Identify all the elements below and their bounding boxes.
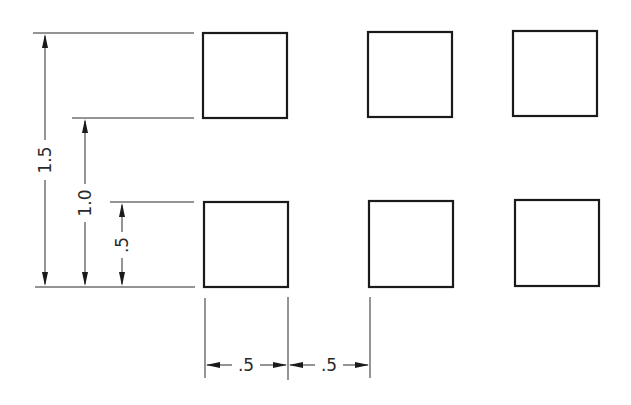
square-top-1 — [203, 33, 287, 118]
dimension-1-5: 1.5 — [35, 34, 55, 286]
dimension-0-5-horizontal-1: .5 — [206, 355, 287, 375]
dimension-0-5-horizontal-2: .5 — [289, 355, 369, 375]
square-bottom-1 — [204, 202, 288, 287]
square-grid — [203, 31, 599, 287]
arrow-up-icon — [119, 203, 125, 217]
dimension-0-5-vertical: .5 — [112, 203, 132, 286]
arrow-up-icon — [82, 119, 88, 133]
arrow-left-icon — [289, 362, 303, 368]
dimension-label-1-5: 1.5 — [35, 146, 55, 173]
extension-lines-bottom — [205, 297, 370, 380]
arrow-right-icon — [355, 362, 369, 368]
dimension-label-0-5-vertical: .5 — [112, 237, 132, 253]
square-top-2 — [368, 32, 452, 117]
dimension-label-1-0: 1.0 — [75, 189, 95, 216]
square-top-3 — [513, 31, 597, 116]
arrow-down-icon — [82, 272, 88, 286]
arrow-right-icon — [273, 362, 287, 368]
square-bottom-3 — [515, 200, 599, 286]
technical-drawing: 1.5 1.0 .5 .5 .5 — [0, 0, 631, 405]
square-bottom-2 — [369, 201, 453, 287]
arrow-down-icon — [119, 272, 125, 286]
arrow-left-icon — [206, 362, 220, 368]
arrow-down-icon — [42, 272, 48, 286]
arrow-up-icon — [42, 34, 48, 48]
dimension-label-0-5-horizontal-1: .5 — [238, 355, 254, 375]
dimension-1-0: 1.0 — [75, 119, 95, 286]
dimension-label-0-5-horizontal-2: .5 — [321, 355, 337, 375]
